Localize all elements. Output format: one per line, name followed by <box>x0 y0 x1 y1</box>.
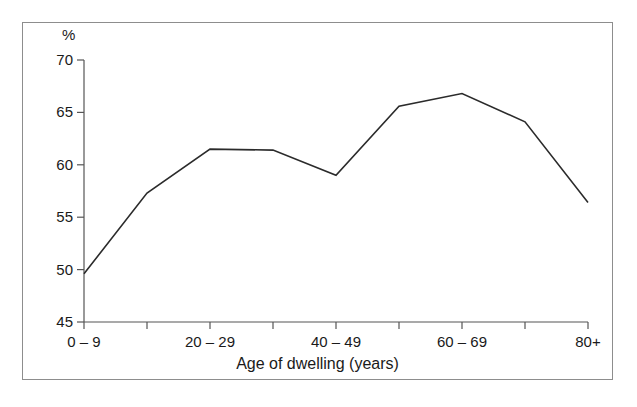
x-axis-tick-label: 80+ <box>538 334 637 349</box>
y-axis-tick-label: 70 <box>39 52 73 67</box>
y-axis-ticks <box>77 60 84 322</box>
x-axis-tick-label: 0 – 9 <box>34 334 134 349</box>
x-axis-tick-label: 40 – 49 <box>286 334 386 349</box>
y-axis-tick-label: 50 <box>39 262 73 277</box>
figure-canvas: % 455055606570 0 – 920 – 2940 – 4960 – 6… <box>0 0 637 407</box>
y-axis-tick-label: 65 <box>39 104 73 119</box>
x-axis-tick-label: 20 – 29 <box>160 334 260 349</box>
x-axis <box>84 322 588 329</box>
x-axis-title: Age of dwelling (years) <box>22 355 613 373</box>
x-axis-tick-label: 60 – 69 <box>412 334 512 349</box>
data-series-line <box>84 94 588 274</box>
y-axis-tick-label: 60 <box>39 157 73 172</box>
y-axis-tick-label: 55 <box>39 209 73 224</box>
y-axis <box>77 60 84 322</box>
x-axis-ticks <box>84 322 588 329</box>
y-axis-tick-label: 45 <box>39 314 73 329</box>
